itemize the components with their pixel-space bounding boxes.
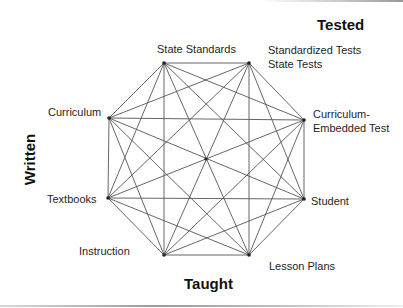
node-label-embedded-test: Embedded Test <box>313 122 389 135</box>
axis-label-tested: Tested <box>317 16 364 33</box>
axis-label-taught: Taught <box>184 275 233 292</box>
edge-instruction-curriculum <box>109 118 164 255</box>
alignment-diagram: Tested Written Taught State Standards St… <box>0 0 403 308</box>
node-standardized-tests <box>247 61 251 65</box>
node-student <box>302 197 306 201</box>
edge-textbooks-curriculum <box>108 118 109 198</box>
node-lesson-plans <box>247 253 251 257</box>
node-label-state-tests: State Tests <box>268 58 322 71</box>
edge-state-standards-student <box>164 63 304 199</box>
axis-label-written: Written <box>21 134 38 185</box>
node-label-standardized-tests: Standardized Tests <box>268 44 361 57</box>
node-curriculum-embedded-test <box>302 118 306 122</box>
node-label-student: Student <box>311 195 349 208</box>
edge-curriculum-embedded-test-curriculum <box>109 118 304 120</box>
edge-lesson-plans-curriculum <box>109 118 249 255</box>
edge-curriculum-embedded-test-instruction <box>164 120 304 255</box>
edge-state-standards-curriculum <box>109 63 164 118</box>
edge-standardized-tests-textbooks <box>108 63 249 198</box>
edge-student-textbooks <box>108 198 304 199</box>
node-curriculum <box>107 116 111 120</box>
node-label-curriculum-embedded: Curriculum- <box>313 108 370 121</box>
top-border <box>260 0 403 2</box>
node-instruction <box>162 253 166 257</box>
center-node <box>204 157 207 160</box>
edge-standardized-tests-curriculum-embedded-test <box>249 63 304 120</box>
node-label-instruction: Instruction <box>79 245 130 258</box>
node-label-state-standards: State Standards <box>157 43 236 56</box>
node-label-textbooks: Textbooks <box>47 193 97 206</box>
node-state-standards <box>162 61 166 65</box>
node-textbooks <box>106 196 110 200</box>
node-label-lesson-plans: Lesson Plans <box>269 260 335 273</box>
node-label-curriculum: Curriculum <box>48 106 101 119</box>
edge-student-lesson-plans <box>249 199 304 255</box>
edge-state-standards-textbooks <box>108 63 164 198</box>
bottom-border <box>0 305 403 307</box>
